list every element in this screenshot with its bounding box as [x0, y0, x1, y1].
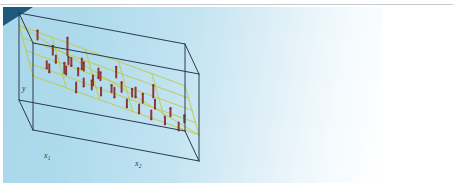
- observation-point: [120, 81, 122, 83]
- observation-point: [83, 85, 85, 87]
- observation-point: [113, 96, 115, 98]
- observation-point: [70, 65, 72, 67]
- observation-point: [150, 118, 152, 120]
- observation-point: [77, 67, 79, 69]
- observation-point: [67, 56, 69, 58]
- observation-point: [97, 77, 99, 79]
- observation-point: [48, 71, 50, 73]
- observation-point: [126, 106, 128, 108]
- observation-point: [110, 84, 112, 86]
- observation-point: [66, 37, 68, 39]
- figure-page: y x1 x2: [0, 0, 453, 190]
- axis-label-y: y: [21, 84, 26, 93]
- observation-point: [115, 66, 117, 68]
- observation-point: [154, 99, 156, 101]
- axis-label-x2-subscript: 2: [139, 163, 142, 169]
- observation-point: [169, 107, 171, 109]
- observation-point: [164, 123, 166, 125]
- observation-point: [63, 62, 65, 64]
- observation-point: [142, 93, 144, 95]
- observation-point: [152, 84, 154, 86]
- observation-point: [46, 67, 48, 69]
- plot-canvas: y x1 x2: [0, 0, 453, 190]
- observation-point: [81, 68, 83, 70]
- axis-label-x1-subscript: 1: [48, 155, 51, 161]
- observation-point: [99, 71, 101, 73]
- observation-point: [131, 88, 133, 90]
- residual-stems: [36, 30, 185, 132]
- observation-point: [91, 80, 93, 82]
- axis-label-x1: x1: [43, 151, 51, 161]
- bounding-box-back-edges: [19, 13, 185, 131]
- observation-point: [134, 96, 136, 98]
- observation-point: [138, 112, 140, 114]
- observation-point: [100, 94, 102, 96]
- observation-point: [83, 61, 85, 63]
- observation-point: [55, 61, 57, 63]
- axis-label-x2: x2: [134, 159, 142, 169]
- observation-point: [75, 91, 77, 93]
- observation-point: [36, 30, 38, 32]
- observation-point: [178, 129, 180, 131]
